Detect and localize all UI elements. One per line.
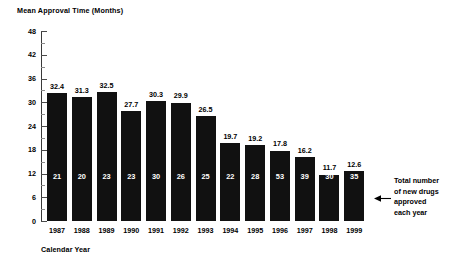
bar-inner-count-label: 30 [325,173,333,180]
bar[interactable] [245,145,265,221]
bar-group: 31.320 [72,31,92,221]
annotation-line: Total number [394,176,456,187]
bar-inner-count-label: 21 [53,173,61,180]
annotation-line: of new drugs [394,187,456,198]
bar-group: 19.228 [245,31,265,221]
bar-group: 29.926 [171,31,191,221]
bar[interactable] [270,151,290,221]
bar[interactable] [171,103,191,221]
bar-inner-count-label: 23 [127,173,135,180]
bar-inner-count-label: 39 [301,173,309,180]
plot-area: 32.42131.32032.52327.72330.33029.92626.5… [41,31,371,221]
y-axis-tick-label: 12 [28,170,36,177]
bar-value-label: 19.2 [248,135,262,142]
bar[interactable] [121,111,141,221]
bar-group: 30.330 [146,31,166,221]
annotation-line: approved [394,197,456,208]
bar-group: 16.239 [295,31,315,221]
bar[interactable] [97,92,117,221]
annotation-text: Total numberof new drugsapprovedeach yea… [394,176,456,218]
y-axis-minor-tick [41,138,45,139]
bar-inner-count-label: 53 [276,173,284,180]
y-axis-tick-label: 18 [28,146,36,153]
y-axis-tick-label: 24 [28,123,36,130]
y-axis-minor-tick [41,90,45,91]
bar-value-label: 32.4 [50,83,64,90]
bar-value-label: 32.5 [100,82,114,89]
bar-value-label: 11.7 [323,164,337,171]
bar-group: 27.723 [121,31,141,221]
bar-value-label: 27.7 [124,101,138,108]
y-axis-tick-label: 48 [28,28,36,35]
bar-value-label: 30.3 [149,91,163,98]
bar[interactable] [220,143,240,221]
y-axis-tick-labels: 0612182430364248 [14,31,36,221]
bar[interactable] [72,97,92,221]
y-axis-minor-tick [41,43,45,44]
bar-inner-count-label: 30 [152,173,160,180]
bar-value-label: 29.9 [174,92,188,99]
bar-inner-count-label: 23 [102,173,110,180]
bar-value-label: 19.7 [223,133,237,140]
y-axis-title: Mean Approval Time (Months) [17,6,123,15]
y-axis-tick-label: 6 [32,194,36,201]
y-axis-tick-label: 0 [32,218,36,225]
y-axis-minor-tick [41,185,45,186]
bar-inner-count-label: 20 [78,173,86,180]
annotation-line: each year [394,208,456,219]
y-axis-tick-label: 36 [28,75,36,82]
annotation-arrow-icon [374,194,392,203]
bar-value-label: 12.6 [347,161,361,168]
bar[interactable] [319,175,339,221]
bar[interactable] [146,101,166,221]
bar-chart: Mean Approval Time (Months) 061218243036… [0,0,456,274]
bar-group: 12.635 [344,31,364,221]
bar-value-label: 26.5 [199,106,213,113]
bar-group: 32.523 [97,31,117,221]
y-axis-tick [41,221,47,222]
bar-inner-count-label: 35 [350,173,358,180]
bar-inner-count-label: 25 [201,173,209,180]
x-axis-tick-label: 1999 [337,227,371,234]
bar[interactable] [196,116,216,221]
bar[interactable] [295,157,315,221]
x-axis-title: Calendar Year [41,245,90,254]
bar-inner-count-label: 26 [177,173,185,180]
bar-group: 26.525 [196,31,216,221]
bar-inner-count-label: 28 [251,173,259,180]
bar-group: 19.722 [220,31,240,221]
y-axis-tick-label: 30 [28,99,36,106]
bar-value-label: 17.8 [273,140,287,147]
y-axis-minor-tick [41,162,45,163]
bar-inner-count-label: 22 [226,173,234,180]
bar-value-label: 16.2 [298,147,312,154]
bar-value-label: 31.3 [75,87,89,94]
y-axis-minor-tick [41,209,45,210]
bar-group: 17.853 [270,31,290,221]
bar-group: 11.730 [319,31,339,221]
bar-group: 32.421 [47,31,67,221]
y-axis-tick-label: 42 [28,51,36,58]
y-axis-minor-tick [41,67,45,68]
y-axis-minor-tick [41,114,45,115]
bar[interactable] [47,93,67,221]
